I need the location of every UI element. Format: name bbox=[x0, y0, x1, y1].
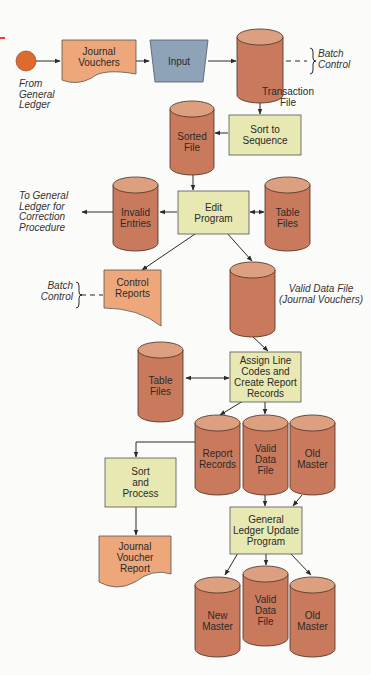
assign-line-codes-label-line: Create Report bbox=[234, 377, 297, 388]
valid-data-file-2-label-line: Valid bbox=[255, 443, 277, 454]
annotation-to-general-ledger: Correction bbox=[19, 211, 66, 222]
gl-update-program-label-line: Ledger Update bbox=[233, 525, 300, 536]
journal-voucher-report-label-line: Voucher bbox=[117, 552, 154, 563]
edge-edit-to-valid-data bbox=[226, 232, 252, 261]
sorted-file-label-line: Sorted bbox=[177, 131, 206, 142]
control-reports-node[interactable]: ControlReports bbox=[104, 270, 161, 326]
annotation-to-general-ledger: Ledger for bbox=[19, 201, 65, 212]
invalid-entries-label-line: Invalid bbox=[121, 207, 150, 218]
journal-voucher-report-label-line: Journal bbox=[119, 541, 152, 552]
annotation-batch-control-top: Control bbox=[318, 59, 351, 70]
storage-cylinder-body bbox=[230, 270, 275, 337]
gl-update-program-label-line: General bbox=[248, 514, 284, 525]
report-records-label-line: Report bbox=[202, 448, 232, 459]
storage-cylinder-top bbox=[243, 566, 288, 582]
annotation-from-general-ledger: General bbox=[19, 89, 55, 100]
old-master-2-node[interactable]: OldMaster bbox=[290, 577, 335, 657]
input-node[interactable]: Input bbox=[150, 40, 208, 82]
valid-data-file-2-node[interactable]: ValidDataFile bbox=[243, 415, 288, 495]
table-files-1-label-line: Table bbox=[276, 207, 300, 218]
flowchart-canvas: JournalVouchersInputSort toSequenceSorte… bbox=[0, 0, 371, 675]
storage-cylinder-top bbox=[265, 177, 310, 193]
gl-update-program-node[interactable]: GeneralLedger UpdateProgram bbox=[230, 507, 302, 554]
edit-program-label-line: Edit bbox=[205, 202, 222, 213]
sort-and-process-label-line: Sort bbox=[131, 466, 150, 477]
edge-old-master-to-gl-update bbox=[293, 495, 302, 506]
sorted-file-node[interactable]: SortedFile bbox=[170, 101, 214, 175]
annotation-batch-control-left: Control bbox=[41, 291, 74, 302]
old-master-1-label-line: Old bbox=[305, 448, 321, 459]
table-files-1-node[interactable]: TableFiles bbox=[265, 177, 310, 251]
assign-line-codes-label-line: Assign Line bbox=[240, 355, 292, 366]
report-records-label-line: Records bbox=[199, 459, 236, 470]
sorted-file-label-line: File bbox=[184, 142, 201, 153]
valid-data-file-2-label-line: File bbox=[257, 465, 274, 476]
annotation-to-general-ledger: To General bbox=[19, 190, 69, 201]
edge-valid-to-assign bbox=[252, 336, 268, 351]
annotation-transaction-file: Transaction bbox=[262, 86, 314, 97]
valid-data-file-1-node[interactable] bbox=[230, 262, 275, 337]
journal-vouchers-node[interactable]: JournalVouchers bbox=[62, 40, 136, 83]
valid-data-file-3-label-line: Valid bbox=[255, 594, 277, 605]
storage-cylinder-top bbox=[170, 101, 214, 117]
new-master-label-line: Master bbox=[202, 621, 233, 632]
accent-mark bbox=[0, 37, 5, 39]
old-master-1-node[interactable]: OldMaster bbox=[290, 415, 335, 495]
valid-data-file-3-label-line: Data bbox=[255, 605, 277, 616]
edit-program-label-line: Program bbox=[194, 213, 232, 224]
assign-line-codes-node[interactable]: Assign LineCodes andCreate ReportRecords bbox=[230, 352, 301, 402]
table-files-1-label-line: Files bbox=[277, 218, 298, 229]
edge-assign-to-report-records bbox=[220, 401, 243, 415]
annotation-valid-data-file-jv: Valid Data File bbox=[289, 283, 354, 294]
start-node[interactable] bbox=[16, 51, 36, 71]
sort-and-process-label-line: and bbox=[132, 477, 149, 488]
report-records-node[interactable]: ReportRecords bbox=[195, 415, 240, 495]
annotation-from-general-ledger: Ledger bbox=[19, 99, 51, 110]
annotation-batch-control-left: Batch bbox=[47, 280, 73, 291]
storage-cylinder-top bbox=[290, 577, 335, 593]
sort-to-sequence-label-line: Sort to bbox=[250, 124, 280, 135]
sort-and-process-node[interactable]: SortandProcess bbox=[105, 458, 176, 507]
journal-voucher-report-label-line: Report bbox=[120, 563, 150, 574]
assign-line-codes-label-line: Records bbox=[247, 388, 284, 399]
brace-batch-control-top bbox=[310, 48, 316, 74]
storage-cylinder-top bbox=[195, 415, 240, 431]
annotation-to-general-ledger: Procedure bbox=[19, 222, 66, 233]
storage-cylinder-top bbox=[290, 415, 335, 431]
table-files-2-label-line: Table bbox=[149, 375, 173, 386]
sort-to-sequence-node[interactable]: Sort toSequence bbox=[229, 115, 301, 155]
table-files-2-node[interactable]: TableFiles bbox=[138, 342, 183, 422]
edge-gl-to-old-master-2 bbox=[290, 553, 311, 575]
new-master-node[interactable]: NewMaster bbox=[195, 577, 240, 657]
storage-cylinder-top bbox=[195, 577, 240, 593]
edit-program-node[interactable]: EditProgram bbox=[178, 191, 249, 234]
edge-gl-to-new-master bbox=[225, 553, 238, 575]
valid-data-file-2-label-line: Data bbox=[255, 454, 277, 465]
storage-cylinder-top bbox=[243, 415, 288, 431]
valid-data-file-3-label-line: File bbox=[257, 616, 274, 627]
terminal-symbol bbox=[16, 51, 36, 71]
storage-cylinder-top bbox=[230, 262, 275, 278]
gl-update-program-label-line: Program bbox=[247, 536, 285, 547]
valid-data-file-3-node[interactable]: ValidDataFile bbox=[243, 566, 288, 646]
invalid-entries-node[interactable]: InvalidEntries bbox=[113, 177, 158, 251]
annotation-batch-control-top: Batch bbox=[318, 48, 344, 59]
old-master-2-label-line: Master bbox=[297, 621, 328, 632]
annotation-from-general-ledger: From bbox=[19, 78, 42, 89]
storage-cylinder-top bbox=[138, 342, 183, 358]
sort-and-process-label-line: Process bbox=[122, 488, 158, 499]
journal-vouchers-label-line: Journal bbox=[83, 46, 116, 57]
brace-batch-control-left bbox=[76, 282, 82, 308]
journal-vouchers-label-line: Vouchers bbox=[78, 57, 120, 68]
old-master-2-label-line: Old bbox=[305, 610, 321, 621]
input-label-line: Input bbox=[168, 56, 190, 67]
control-reports-label-line: Reports bbox=[115, 288, 150, 299]
control-reports-label-line: Control bbox=[116, 277, 148, 288]
invalid-entries-label-line: Entries bbox=[120, 218, 151, 229]
storage-cylinder-top bbox=[113, 177, 158, 193]
edge-report-to-sort-process bbox=[136, 442, 196, 457]
assign-line-codes-label-line: Codes and bbox=[241, 366, 289, 377]
journal-voucher-report-node[interactable]: JournalVoucherReport bbox=[99, 536, 171, 587]
table-files-2-label-line: Files bbox=[150, 386, 171, 397]
sort-to-sequence-label-line: Sequence bbox=[242, 135, 287, 146]
